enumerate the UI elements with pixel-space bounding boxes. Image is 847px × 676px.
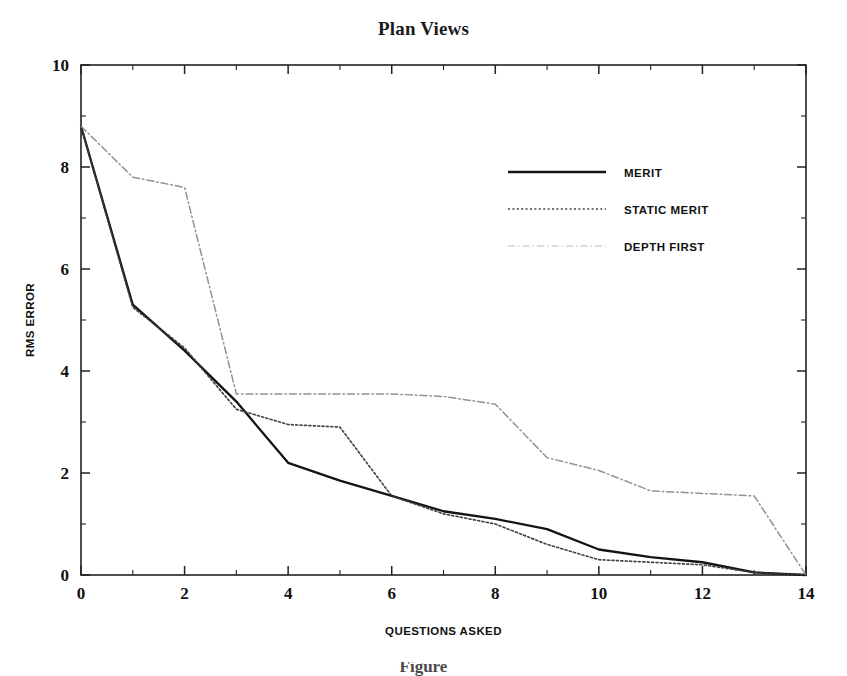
x-tick-label: 10 [590,584,607,603]
plot-canvas: 024681012140246810QUESTIONS ASKEDRMS ERR… [0,0,847,660]
y-tick-label: 8 [61,158,70,177]
figure-caption-text: Figure [400,662,448,676]
x-axis-label: QUESTIONS ASKED [385,625,502,637]
x-tick-label: 4 [284,584,293,603]
y-tick-label: 4 [61,362,70,381]
y-tick-label: 10 [52,56,69,75]
x-tick-label: 2 [180,584,189,603]
x-tick-label: 12 [694,584,711,603]
figure-caption-clipped: Figure [0,662,847,676]
series-line-merit [81,126,806,575]
figure-container: Plan Views 024681012140246810QUESTIONS A… [0,0,847,676]
y-tick-label: 0 [61,566,70,585]
x-tick-label: 14 [798,584,816,603]
x-tick-label: 0 [77,584,86,603]
legend-label-merit: MERIT [624,167,662,179]
series-line-depth-first [81,126,806,575]
y-tick-label: 2 [61,464,70,483]
x-tick-label: 8 [491,584,500,603]
y-tick-label: 6 [61,260,70,279]
y-axis-label: RMS ERROR [24,283,36,357]
legend-label-depth-first: DEPTH FIRST [624,241,705,253]
series-line-static-merit [81,126,806,575]
legend-label-static-merit: STATIC MERIT [624,204,709,216]
plot-frame [81,65,806,575]
x-tick-label: 6 [387,584,396,603]
